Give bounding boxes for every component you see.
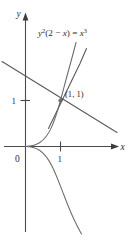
origin-label: 0 bbox=[15, 154, 20, 164]
y-axis-label: y bbox=[16, 9, 22, 19]
curve-plot-svg: y2(2 − x) = x3 (1, 1) y x 1 1 0 bbox=[0, 0, 131, 240]
x-axis-label: x bbox=[120, 142, 126, 152]
x-axis-arrow-icon bbox=[111, 144, 119, 150]
curve-equation-label: y2(2 − x) = x3 bbox=[37, 27, 87, 39]
point-marker-1-1 bbox=[58, 98, 62, 102]
math-figure: y2(2 − x) = x3 (1, 1) y x 1 1 0 bbox=[0, 0, 131, 240]
point-label-1-1: (1, 1) bbox=[65, 89, 84, 99]
x-axis-tick-label-1: 1 bbox=[58, 154, 63, 164]
normal-line bbox=[2, 62, 117, 133]
curve-lower-branch bbox=[26, 147, 82, 235]
y-axis-tick-label-1: 1 bbox=[12, 96, 17, 106]
y-axis-arrow-icon bbox=[23, 13, 29, 21]
